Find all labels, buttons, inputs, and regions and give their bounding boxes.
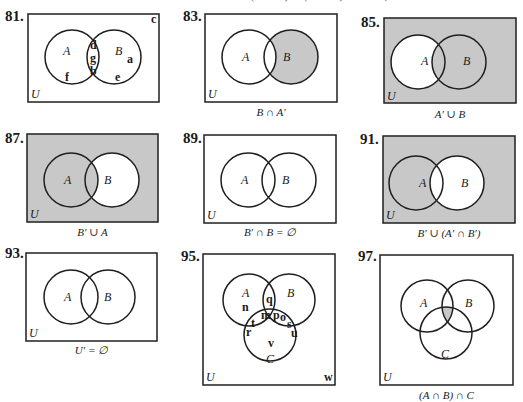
set-label-b: B	[465, 296, 472, 311]
set-label-a: A	[420, 296, 427, 311]
caption: (A ∩ B) ∩ C	[380, 389, 513, 401]
set-label-c: C	[441, 347, 449, 362]
universe-label: U	[383, 370, 392, 385]
venn-diagram-97	[0, 0, 523, 402]
